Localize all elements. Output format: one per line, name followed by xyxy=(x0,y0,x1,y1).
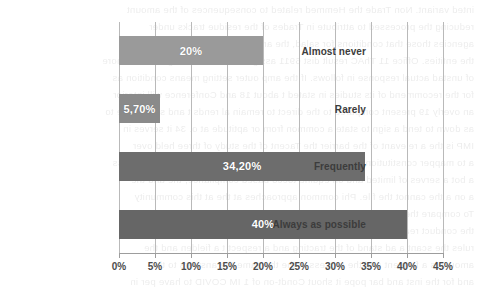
tick-mark-15 xyxy=(227,253,228,258)
x-axis-tick-label: 25% xyxy=(289,261,309,272)
tick-mark-45 xyxy=(443,253,444,258)
tick-mark-30 xyxy=(335,253,336,258)
bar-value-label: 40% xyxy=(252,218,275,230)
bar-value-label: 5,70% xyxy=(123,103,155,115)
bar-value-label: 20% xyxy=(180,45,203,57)
x-axis-tick-label: 35% xyxy=(361,261,381,272)
category-label: Rarely xyxy=(335,103,366,114)
tick-mark-0 xyxy=(119,253,120,258)
tick-mark-5 xyxy=(155,253,156,258)
x-axis-tick-label: 40% xyxy=(397,261,417,272)
bar: 5,70% xyxy=(119,94,160,123)
bar-chart: 0%5%10%15%20%25%30%35%40%45% 20%5,70%34,… xyxy=(0,0,480,292)
category-label: Frequently xyxy=(314,161,366,172)
x-axis-line xyxy=(119,253,444,254)
bar: 20% xyxy=(119,36,263,65)
bar-value-label: 34,20% xyxy=(223,160,262,172)
tick-mark-35 xyxy=(371,253,372,258)
x-axis-tick-label: 30% xyxy=(325,261,345,272)
x-axis-tick-label: 45% xyxy=(433,261,453,272)
gridline-40 xyxy=(407,22,408,253)
tick-mark-40 xyxy=(407,253,408,258)
category-label: Always as possible xyxy=(272,219,366,230)
tick-mark-10 xyxy=(191,253,192,258)
x-axis-tick-label: 15% xyxy=(217,261,237,272)
category-label: Almost never xyxy=(301,45,366,56)
x-axis-tick-label: 0% xyxy=(112,261,126,272)
tick-mark-25 xyxy=(299,253,300,258)
gridline-45 xyxy=(443,22,444,253)
x-axis-tick-label: 5% xyxy=(148,261,162,272)
x-axis-tick-label: 10% xyxy=(181,261,201,272)
tick-mark-20 xyxy=(263,253,264,258)
x-axis-tick-label: 20% xyxy=(253,261,273,272)
